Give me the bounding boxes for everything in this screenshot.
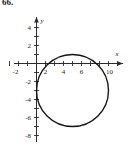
y-axis-arrow-icon [34, 17, 39, 23]
figure-container: 66. [0, 0, 132, 147]
x-tick-label-4: 4 [62, 68, 66, 76]
x-axis-arrow-icon [118, 61, 124, 66]
y-tick-label-2: 2 [28, 42, 32, 50]
x-tick-label-2: 2 [44, 68, 48, 76]
y-axis-label: y [39, 17, 44, 25]
y-tick-label-4: 4 [28, 24, 32, 32]
x-tick-label-6: 6 [80, 68, 84, 76]
x-tick-label-10: 10 [106, 68, 114, 76]
x-axis-label: x [114, 50, 119, 58]
y-tick-label--2: -2 [25, 78, 31, 86]
y-tick-label--6: -6 [25, 114, 31, 122]
plot-svg: -2 2 4 6 10 4 2 -2 -4 -6 -8 x y [0, 0, 132, 147]
coordinate-plane: -2 2 4 6 10 4 2 -2 -4 -6 -8 x y [0, 0, 132, 147]
y-tick-label--8: -8 [25, 132, 31, 140]
x-tick-label--2: -2 [13, 68, 19, 76]
y-tick-label--4: -4 [25, 96, 31, 104]
